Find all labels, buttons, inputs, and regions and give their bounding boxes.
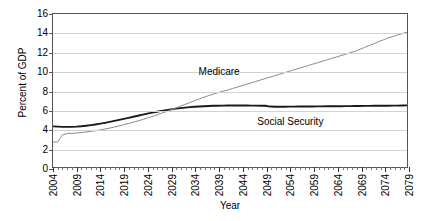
x-tick-mark-minor [205, 167, 206, 170]
x-tick-mark [77, 167, 78, 172]
x-tick-mark-minor [167, 167, 168, 170]
series-label-social-security: Social Security [257, 116, 323, 128]
y-gridline [53, 53, 407, 54]
y-tick-label: 2 [22, 144, 53, 156]
y-gridline [53, 111, 407, 112]
x-tick-mark-minor [347, 167, 348, 170]
y-tick-label: 8 [22, 86, 53, 98]
y-tick-label: 16 [22, 8, 53, 20]
x-tick-mark-minor [143, 167, 144, 170]
x-tick-mark-minor [210, 167, 211, 170]
x-tick-label: 2069 [356, 174, 367, 196]
x-tick-mark [148, 167, 149, 172]
x-tick-label: 2024 [142, 174, 153, 196]
x-tick-mark-minor [153, 167, 154, 170]
x-tick-label: 2014 [95, 174, 106, 196]
x-tick-mark-minor [105, 167, 106, 170]
x-tick-label: 2034 [190, 174, 201, 196]
x-tick-label: 2049 [261, 174, 272, 196]
x-tick-mark [290, 167, 291, 172]
x-tick-mark-minor [305, 167, 306, 170]
y-tick-label: 4 [22, 124, 53, 136]
x-tick-mark-minor [119, 167, 120, 170]
x-tick-mark-minor [81, 167, 82, 170]
x-tick-mark-minor [400, 167, 401, 170]
x-tick-mark-minor [319, 167, 320, 170]
x-tick-mark [124, 167, 125, 172]
x-tick-mark [267, 167, 268, 172]
x-tick-mark [362, 167, 363, 172]
x-tick-mark [385, 167, 386, 172]
plot-area: 0246810121416200420092014201920242029203… [52, 13, 408, 168]
x-tick-mark-minor [300, 167, 301, 170]
x-tick-label: 2004 [48, 174, 59, 196]
x-tick-mark-minor [357, 167, 358, 170]
x-tick-mark-minor [86, 167, 87, 170]
x-tick-mark-minor [233, 167, 234, 170]
x-tick-mark-minor [176, 167, 177, 170]
x-tick-label: 2044 [237, 174, 248, 196]
x-tick-mark-minor [214, 167, 215, 170]
x-tick-mark [100, 167, 101, 172]
x-tick-mark-minor [162, 167, 163, 170]
x-tick-mark-minor [115, 167, 116, 170]
series-layer [53, 14, 407, 167]
x-tick-mark-minor [186, 167, 187, 170]
x-tick-label: 2074 [380, 174, 391, 196]
x-tick-mark-minor [238, 167, 239, 170]
x-tick-mark-minor [295, 167, 296, 170]
x-tick-mark [314, 167, 315, 172]
x-tick-mark-minor [191, 167, 192, 170]
y-gridline [53, 150, 407, 151]
x-axis-title: Year [52, 200, 408, 212]
x-tick-mark-minor [395, 167, 396, 170]
x-tick-mark-minor [286, 167, 287, 170]
x-tick-label: 2059 [309, 174, 320, 196]
y-tick-label: 10 [22, 66, 53, 78]
x-tick-mark-minor [309, 167, 310, 170]
x-tick-mark-minor [324, 167, 325, 170]
y-tick-label: 6 [22, 105, 53, 117]
x-tick-label: 2039 [214, 174, 225, 196]
x-tick-mark-minor [271, 167, 272, 170]
series-line-medicare [53, 32, 407, 142]
x-tick-mark-minor [224, 167, 225, 170]
y-gridline [53, 130, 407, 131]
x-tick-mark-minor [157, 167, 158, 170]
x-tick-mark-minor [96, 167, 97, 170]
x-tick-mark-minor [366, 167, 367, 170]
x-tick-mark [172, 167, 173, 172]
x-tick-mark-minor [248, 167, 249, 170]
x-tick-mark-minor [129, 167, 130, 170]
x-tick-mark-minor [110, 167, 111, 170]
x-tick-label: 2019 [119, 174, 130, 196]
x-tick-mark-minor [67, 167, 68, 170]
y-gridline [53, 92, 407, 93]
x-tick-label: 2054 [285, 174, 296, 196]
x-tick-mark-minor [352, 167, 353, 170]
x-tick-mark-minor [91, 167, 92, 170]
x-tick-mark [338, 167, 339, 172]
x-tick-mark-minor [276, 167, 277, 170]
x-tick-mark-minor [328, 167, 329, 170]
x-tick-mark-minor [257, 167, 258, 170]
series-label-medicare: Medicare [199, 66, 240, 78]
chart-container: Percent of GDP Year 02468101214162004200… [0, 0, 428, 221]
x-tick-mark-minor [343, 167, 344, 170]
x-tick-mark [53, 167, 54, 172]
y-gridline [53, 33, 407, 34]
x-tick-label: 2079 [404, 174, 415, 196]
x-tick-mark-minor [72, 167, 73, 170]
x-tick-mark-minor [333, 167, 334, 170]
x-tick-mark-minor [181, 167, 182, 170]
x-tick-mark [243, 167, 244, 172]
x-tick-mark-minor [381, 167, 382, 170]
x-tick-mark [219, 167, 220, 172]
series-line-social-security [53, 105, 407, 127]
x-tick-label: 2029 [166, 174, 177, 196]
x-tick-label: 2064 [332, 174, 343, 196]
x-tick-mark-minor [229, 167, 230, 170]
x-tick-mark-minor [138, 167, 139, 170]
x-tick-label: 2009 [71, 174, 82, 196]
x-tick-mark-minor [58, 167, 59, 170]
